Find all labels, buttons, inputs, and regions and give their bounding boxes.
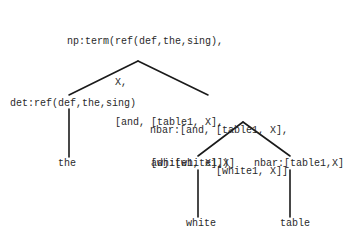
adj-node: adj:[white1,X] [151,157,235,171]
det-leaf-the: the [58,157,76,171]
parse-tree-diagram: np:term(ref(def,the,sing), X, [and, [tab… [0,0,355,238]
det-node: det:ref(def,the,sing) [10,97,136,111]
nbar2-node: nbar:[table1,X] [254,157,344,171]
root-line-1: np:term(ref(def,the,sing), [67,35,229,49]
root-line-2: X, [67,76,229,90]
adj-leaf-white: white [186,217,216,231]
nbar-line-1: nbar:[and, [table1, X], [150,124,288,138]
nbar-node: nbar:[and, [table1, X], [white1, X]] [150,97,288,205]
nbar2-leaf-table: table [280,217,310,231]
